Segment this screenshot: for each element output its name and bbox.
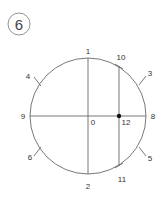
label-3: 3 bbox=[148, 69, 153, 78]
label-9: 9 bbox=[21, 112, 26, 121]
label-11: 11 bbox=[118, 175, 127, 184]
label-4: 4 bbox=[26, 72, 31, 81]
label-1: 1 bbox=[86, 47, 91, 56]
label-8: 8 bbox=[151, 112, 156, 121]
intersection-point-12 bbox=[117, 114, 121, 118]
tick-mark-6 bbox=[34, 147, 41, 156]
step-badge: 6 bbox=[8, 13, 30, 35]
label-0: 0 bbox=[91, 118, 96, 127]
label-6: 6 bbox=[28, 153, 33, 162]
step-number: 6 bbox=[15, 16, 23, 33]
tick-mark-3 bbox=[139, 76, 146, 85]
label-5: 5 bbox=[148, 154, 153, 163]
tick-mark-5 bbox=[139, 147, 146, 156]
construction-diagram: 6 1 2 9 8 0 12 10 11 3 4 5 6 bbox=[0, 0, 166, 201]
label-12: 12 bbox=[122, 118, 131, 127]
tick-mark-4 bbox=[34, 77, 41, 86]
label-2: 2 bbox=[86, 182, 91, 191]
label-10: 10 bbox=[117, 53, 126, 62]
